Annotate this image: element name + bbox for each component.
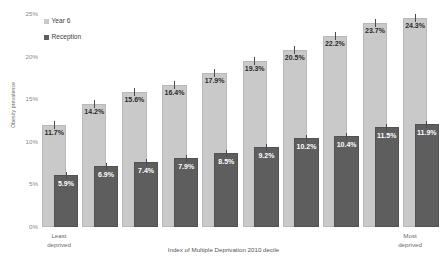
error-bar-reception [426,121,427,128]
legend-item-label: Reception [52,34,82,41]
bar-value-label-reception: 9.2% [255,152,277,159]
x-axis-least-line1: Least [30,232,88,241]
bar-value-label-year6: 14.2% [83,108,105,115]
bar-reception: 5.9% [54,175,78,227]
error-bar-year6 [375,19,376,27]
bar-group: 20.5%10.2% [283,14,319,227]
legend-swatch-icon [44,19,49,24]
bar-value-label-reception: 7.9% [175,163,197,170]
x-axis-most-line1: Most [381,232,439,241]
bar-reception: 10.2% [294,138,318,227]
bar-group: 22.2%10.4% [323,14,359,227]
error-bar-reception [306,135,307,142]
bar-value-label-year6: 15.6% [123,96,145,103]
bar-reception: 10.4% [334,136,358,227]
y-axis-tick-labels: 0%5%10%15%20%25% [12,0,38,269]
error-bar-year6 [214,69,215,77]
error-bar-year6 [94,100,95,108]
legend-item-label: Year 6 [52,18,71,25]
bar-value-label-reception: 11.5% [376,132,398,139]
error-bar-reception [346,133,347,140]
error-bar-reception [386,124,387,131]
bar-value-label-reception: 7.4% [135,167,157,174]
y-axis-tick-label: 0% [14,224,38,230]
error-bar-year6 [54,121,55,129]
error-bar-reception [146,159,147,166]
bar-group: 19.3%9.2% [243,14,279,227]
bar-reception: 9.2% [254,147,278,227]
y-axis-tick-label: 25% [14,11,38,17]
bar-reception: 7.9% [174,158,198,227]
x-axis-title: Index of Multiple Deprivation 2010 decil… [0,246,447,253]
bar-reception: 11.5% [375,127,399,227]
bar-value-label-year6: 23.7% [364,27,386,34]
bar-value-label-reception: 10.2% [295,143,317,150]
error-bar-year6 [415,14,416,22]
error-bar-year6 [254,57,255,65]
bar-value-label-year6: 19.3% [244,65,266,72]
bar-value-label-reception: 11.9% [416,129,438,136]
bar-value-label-year6: 22.2% [324,40,346,47]
y-axis-tick-label: 5% [14,181,38,187]
error-bar-reception [106,163,107,170]
bar-value-label-year6: 11.7% [43,129,65,136]
y-axis-tick-label: 15% [14,96,38,102]
bar-value-label-reception: 5.9% [55,180,77,187]
error-bar-year6 [134,88,135,96]
y-axis-tick-label: 10% [14,139,38,145]
error-bar-reception [66,172,67,179]
bar-value-label-year6: 24.3% [404,22,426,29]
legend-item: Reception [44,34,134,41]
bar-reception: 6.9% [94,166,118,227]
chart-legend: Year 6Reception [44,18,134,50]
error-bar-year6 [174,81,175,89]
bar-group: 24.3%11.9% [403,14,439,227]
bar-group: 16.4%7.9% [162,14,198,227]
bar-value-label-year6: 20.5% [284,54,306,61]
bar-reception: 11.9% [415,124,439,227]
error-bar-year6 [294,46,295,54]
bar-value-label-reception: 10.4% [335,141,357,148]
bar-value-label-reception: 8.5% [215,158,237,165]
bar-value-label-year6: 17.9% [203,77,225,84]
y-axis-tick-label: 20% [14,54,38,60]
bar-value-label-year6: 16.4% [163,89,185,96]
legend-item: Year 6 [44,18,134,25]
obesity-prevalence-bar-chart: Obesity prevalence 0%5%10%15%20%25% 11.7… [0,0,447,269]
error-bar-reception [266,144,267,151]
bar-reception: 8.5% [214,153,238,227]
error-bar-reception [186,155,187,162]
bar-group: 17.9%8.5% [202,14,238,227]
error-bar-reception [226,150,227,157]
error-bar-year6 [335,32,336,40]
legend-swatch-icon [44,35,49,40]
bar-value-label-reception: 6.9% [95,171,117,178]
bar-reception: 7.4% [134,162,158,227]
bar-group: 23.7%11.5% [363,14,399,227]
